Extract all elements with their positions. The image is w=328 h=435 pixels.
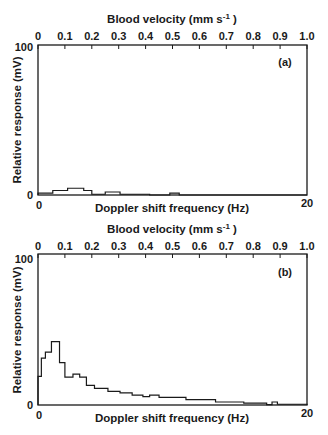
top-tick-label: 0.1	[57, 30, 72, 42]
panel-b: Blood velocity (mm s-1 ) 00.10.20.30.40.…	[11, 222, 315, 424]
histogram-bin	[92, 194, 105, 195]
top-tick-label: 1.0	[299, 30, 314, 42]
figure: Blood velocity (mm s-1 ) 00.10.20.30.40.…	[0, 0, 328, 435]
histogram-bin	[68, 188, 84, 195]
x-axis-title: Doppler shift frequency (Hz)	[95, 202, 249, 214]
top-axis-ticks: 00.10.20.30.40.50.60.70.80.91.0	[35, 240, 315, 258]
top-tick-label: 0.2	[84, 30, 99, 42]
histogram-bin	[86, 385, 94, 405]
y-tick-label-min: 0	[27, 189, 33, 201]
histogram-bin	[244, 403, 267, 405]
histogram-bin	[143, 397, 150, 405]
histogram-bin	[132, 395, 143, 405]
histogram-bin	[108, 391, 120, 405]
top-tick-label: 0.3	[111, 240, 126, 252]
top-tick-label: 0.8	[246, 30, 261, 42]
top-tick-label: 0.5	[165, 240, 180, 252]
histogram-bin	[80, 377, 87, 405]
histogram-bin	[41, 358, 45, 405]
x-tick-label-min: 0	[36, 199, 42, 211]
top-tick-label: 0.6	[192, 30, 207, 42]
histogram-bin	[159, 397, 186, 405]
histogram-bin	[51, 342, 59, 405]
histogram-bin	[38, 376, 41, 405]
histogram-bin	[216, 402, 244, 405]
histogram-bin	[105, 192, 120, 195]
y-tick-label-max: 100	[15, 253, 33, 265]
histogram-bin	[73, 374, 80, 405]
top-axis-title: Blood velocity (mm s-1 )	[107, 12, 237, 25]
top-tick-label: 0.4	[138, 30, 154, 42]
top-tick-label: 0.1	[57, 240, 72, 252]
top-tick-label: 0.9	[272, 30, 287, 42]
top-tick-label: 0.4	[138, 240, 154, 252]
x-tick-label-max: 20	[301, 407, 313, 419]
top-tick-label: 0.2	[84, 240, 99, 252]
x-tick-label-min: 0	[36, 409, 42, 421]
histogram-bin	[94, 388, 107, 405]
top-axis-title: Blood velocity (mm s-1 )	[107, 222, 237, 235]
histogram-bin	[272, 402, 277, 405]
histogram-bin	[120, 393, 132, 405]
histogram-bin	[120, 194, 150, 195]
x-axis-title: Doppler shift frequency (Hz)	[95, 412, 249, 424]
top-tick-label: 0.7	[219, 30, 234, 42]
panel-label: (b)	[278, 266, 292, 278]
plot-frame	[38, 45, 307, 195]
top-axis-ticks: 00.10.20.30.40.50.60.70.80.91.0	[35, 30, 315, 49]
top-tick-label: 0.7	[219, 240, 234, 252]
panel-label: (a)	[278, 56, 292, 68]
top-tick-label: 0.5	[165, 30, 180, 42]
y-tick-label-min: 0	[27, 399, 33, 411]
histogram-bin	[38, 193, 53, 195]
histogram-bin	[277, 404, 307, 405]
histogram-bin	[45, 352, 51, 405]
y-axis-title: Relative response (mV)	[11, 56, 23, 183]
top-tick-label: 0	[35, 30, 41, 42]
histogram-bin	[60, 363, 65, 405]
top-tick-label: 0.9	[272, 240, 287, 252]
histogram-bin	[170, 193, 179, 195]
histogram-bin	[65, 377, 73, 405]
y-axis-title: Relative response (mV)	[11, 266, 23, 393]
histogram-bin	[150, 395, 159, 405]
y-tick-label-max: 100	[15, 41, 33, 53]
top-tick-label: 0.6	[192, 240, 207, 252]
histogram-bin	[186, 400, 216, 405]
panel-a: Blood velocity (mm s-1 ) 00.10.20.30.40.…	[11, 12, 315, 214]
histogram-bin	[53, 191, 68, 196]
x-tick-label-max: 20	[301, 197, 313, 209]
histogram-bin	[84, 191, 92, 196]
top-tick-label: 0.3	[111, 30, 126, 42]
top-tick-label: 0.8	[246, 240, 261, 252]
top-tick-label: 1.0	[299, 240, 314, 252]
top-tick-label: 0	[35, 240, 41, 252]
